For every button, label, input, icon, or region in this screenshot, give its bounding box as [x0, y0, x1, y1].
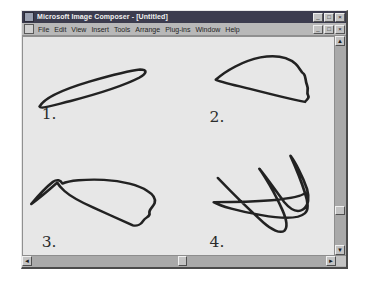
horizontal-scroll-track[interactable] — [32, 256, 326, 267]
menu-item-view[interactable]: View — [71, 24, 86, 35]
application-window: Microsoft Image Composer - [Untitled] _ … — [21, 10, 348, 269]
sketch-shape-3[interactable] — [31, 180, 155, 226]
sketch-label-1: 1. — [42, 105, 57, 121]
mdi-minimize-button[interactable]: _ — [313, 25, 323, 34]
sketch-label-2: 2. — [210, 109, 225, 125]
mdi-close-button[interactable]: × — [335, 25, 345, 34]
vertical-scrollbar[interactable]: ▲ ▼ — [334, 36, 346, 255]
sketch-drawing: 1.2.3.4. — [23, 37, 334, 255]
scrollbar-corner — [336, 256, 346, 266]
window-controls: _ □ × — [313, 13, 345, 22]
vertical-scroll-thumb[interactable] — [335, 206, 345, 215]
menu-item-insert[interactable]: Insert — [91, 24, 109, 35]
horizontal-scrollbar[interactable]: ◄ ► — [22, 255, 346, 267]
scroll-up-arrow-icon[interactable]: ▲ — [335, 36, 345, 46]
menu-item-file[interactable]: File — [38, 24, 49, 35]
menu-item-plugins[interactable]: Plug-ins — [165, 24, 190, 35]
sketch-shape-4[interactable] — [214, 156, 309, 232]
vertical-scroll-track[interactable] — [335, 46, 346, 245]
menu-item-arrange[interactable]: Arrange — [135, 24, 160, 35]
scroll-left-arrow-icon[interactable]: ◄ — [22, 256, 32, 266]
window-title: Microsoft Image Composer - [Untitled] — [37, 11, 313, 23]
scroll-right-arrow-icon[interactable]: ► — [326, 256, 336, 266]
maximize-button[interactable]: □ — [324, 13, 334, 22]
app-icon[interactable] — [24, 12, 34, 22]
client-area: 1.2.3.4. ▲ ▼ ◄ ► — [22, 36, 346, 267]
title-bar[interactable]: Microsoft Image Composer - [Untitled] _ … — [22, 11, 346, 23]
drawing-canvas[interactable]: 1.2.3.4. — [22, 36, 334, 255]
sketch-label-4: 4. — [210, 233, 225, 249]
canvas-row: 1.2.3.4. ▲ ▼ — [22, 36, 346, 255]
mdi-child-controls: _ □ × — [313, 25, 345, 34]
menu-item-help[interactable]: Help — [225, 24, 239, 35]
menu-item-tools[interactable]: Tools — [114, 24, 130, 35]
sketch-shape-1[interactable] — [40, 69, 146, 107]
menu-item-window[interactable]: Window — [195, 24, 220, 35]
minimize-button[interactable]: _ — [313, 13, 323, 22]
document-icon[interactable] — [24, 24, 34, 34]
sketch-shape-2[interactable] — [216, 56, 309, 102]
scroll-down-arrow-icon[interactable]: ▼ — [335, 245, 345, 255]
menu-item-edit[interactable]: Edit — [54, 24, 66, 35]
sketch-label-3: 3. — [42, 233, 57, 249]
menu-items: File Edit View Insert Tools Arrange Plug… — [38, 24, 313, 35]
mdi-restore-button[interactable]: □ — [324, 25, 334, 34]
menu-bar: File Edit View Insert Tools Arrange Plug… — [22, 23, 346, 36]
horizontal-scroll-thumb[interactable] — [178, 256, 187, 266]
close-button[interactable]: × — [335, 13, 345, 22]
